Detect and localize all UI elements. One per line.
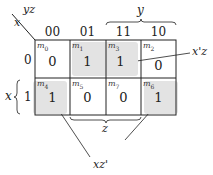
cell-m0: m0 0 bbox=[35, 40, 70, 78]
minterm-label: m3 bbox=[108, 41, 119, 52]
cell-m6: m6 1 bbox=[141, 78, 176, 116]
minterm-label: m5 bbox=[72, 79, 83, 90]
cell-m3: m3 1 bbox=[106, 40, 141, 78]
col-var-label: yz bbox=[23, 3, 35, 16]
cell-value: 0 bbox=[141, 58, 176, 73]
x-brace-label: x bbox=[5, 89, 12, 103]
col-header-01: 01 bbox=[70, 25, 105, 39]
y-brace-label: y bbox=[137, 3, 144, 17]
minterm-label: m0 bbox=[37, 41, 48, 52]
minterm-label: m1 bbox=[72, 41, 83, 52]
cell-value: 1 bbox=[35, 90, 70, 105]
minterm-label: m4 bbox=[37, 79, 48, 90]
minterm-label: m2 bbox=[143, 41, 154, 52]
row-header-1: 1 bbox=[24, 90, 32, 104]
col-header-11: 11 bbox=[106, 25, 141, 39]
cell-value: 0 bbox=[106, 90, 141, 105]
minterm-label: m7 bbox=[108, 79, 119, 90]
cell-m2: m2 0 bbox=[141, 40, 176, 78]
row-var-label: x bbox=[14, 16, 20, 29]
cell-value: 0 bbox=[70, 90, 105, 105]
minterm-label: m6 bbox=[143, 79, 154, 90]
col-header-10: 10 bbox=[141, 25, 176, 39]
z-brace-label: z bbox=[102, 122, 108, 135]
cell-m5: m5 0 bbox=[70, 78, 105, 116]
group-label-xprime-z: x'z bbox=[192, 45, 207, 58]
cell-m7: m7 0 bbox=[106, 78, 141, 116]
cell-value: 1 bbox=[100, 54, 141, 69]
cell-value: 1 bbox=[141, 90, 176, 105]
col-header-00: 00 bbox=[35, 25, 70, 39]
row-header-0: 0 bbox=[24, 53, 32, 67]
cell-m4: m4 1 bbox=[35, 78, 70, 116]
cell-value: 0 bbox=[35, 54, 70, 69]
group-label-x-zprime: xz' bbox=[93, 158, 108, 171]
